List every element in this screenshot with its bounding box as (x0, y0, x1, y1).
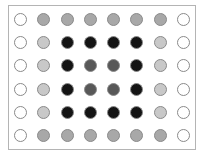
data-point-circle (14, 59, 27, 72)
grid-row (9, 124, 195, 147)
grid-cell (172, 36, 195, 49)
grid-cell (9, 83, 32, 96)
grid-cell (125, 106, 148, 119)
grid-cell (9, 13, 32, 26)
data-point-circle (37, 129, 50, 142)
data-point-circle (84, 83, 97, 96)
data-point-circle (130, 129, 143, 142)
grid-cell (32, 13, 55, 26)
data-point-circle (37, 59, 50, 72)
grid-cell (102, 129, 125, 142)
grid-cell (56, 13, 79, 26)
data-point-circle (61, 129, 74, 142)
grid-cell (32, 129, 55, 142)
data-point-circle (37, 36, 50, 49)
grid-cell (9, 59, 32, 72)
data-point-circle (84, 36, 97, 49)
data-point-circle (154, 129, 167, 142)
data-point-circle (37, 83, 50, 96)
data-point-circle (154, 59, 167, 72)
data-point-circle (177, 13, 190, 26)
grid-cell (102, 106, 125, 119)
caption-strip (8, 152, 196, 163)
grid-cell (32, 36, 55, 49)
data-point-circle (130, 83, 143, 96)
grid-cell (172, 13, 195, 26)
data-point-circle (84, 59, 97, 72)
grid-cell (125, 83, 148, 96)
data-point-circle (107, 36, 120, 49)
data-point-circle (61, 36, 74, 49)
data-point-circle (130, 13, 143, 26)
grid-cell (32, 106, 55, 119)
grid-cell (32, 59, 55, 72)
grid-cell (102, 36, 125, 49)
grid-cell (149, 106, 172, 119)
grid-cell (56, 83, 79, 96)
data-point-circle (14, 36, 27, 49)
grid-row (9, 54, 195, 77)
plot-frame (8, 5, 196, 150)
data-point-circle (177, 36, 190, 49)
grid-cell (56, 59, 79, 72)
grid-cell (56, 129, 79, 142)
data-point-circle (14, 83, 27, 96)
grid-cell (149, 129, 172, 142)
data-point-circle (154, 13, 167, 26)
data-point-circle (84, 129, 97, 142)
data-point-circle (107, 13, 120, 26)
data-point-circle (14, 129, 27, 142)
grid-cell (56, 106, 79, 119)
grid-cell (172, 106, 195, 119)
data-point-circle (130, 36, 143, 49)
data-point-circle (177, 129, 190, 142)
grid-cell (125, 13, 148, 26)
grid-cell (102, 59, 125, 72)
grid-cell (149, 36, 172, 49)
data-point-circle (130, 59, 143, 72)
data-point-circle (37, 106, 50, 119)
grid-cell (79, 59, 102, 72)
grid-cell (79, 106, 102, 119)
data-point-circle (61, 83, 74, 96)
grid-cell (9, 106, 32, 119)
grid-row (9, 78, 195, 101)
grid-cell (149, 83, 172, 96)
data-point-circle (84, 13, 97, 26)
grid-cell (149, 13, 172, 26)
data-point-circle (154, 106, 167, 119)
grid-row (9, 101, 195, 124)
data-point-circle (154, 36, 167, 49)
grid-cell (79, 129, 102, 142)
grid-cell (56, 36, 79, 49)
data-point-circle (14, 13, 27, 26)
data-point-circle (61, 13, 74, 26)
data-point-circle (107, 59, 120, 72)
grid-cell (79, 36, 102, 49)
figure-root (0, 0, 204, 163)
grid-cell (125, 59, 148, 72)
data-point-circle (107, 129, 120, 142)
grid-cell (79, 13, 102, 26)
data-point-circle (84, 106, 97, 119)
data-point-circle (37, 13, 50, 26)
grid-cell (32, 83, 55, 96)
grid-cell (9, 129, 32, 142)
data-point-circle (61, 59, 74, 72)
grid-cell (125, 129, 148, 142)
data-point-circle (130, 106, 143, 119)
grid-cell (79, 83, 102, 96)
grid-cell (9, 36, 32, 49)
grid-cell (149, 59, 172, 72)
grid-cell (172, 59, 195, 72)
data-point-circle (154, 83, 167, 96)
data-point-circle (177, 83, 190, 96)
dot-matrix-grid (9, 6, 195, 149)
data-point-circle (14, 106, 27, 119)
grid-cell (102, 13, 125, 26)
grid-cell (172, 83, 195, 96)
grid-cell (125, 36, 148, 49)
data-point-circle (107, 106, 120, 119)
grid-row (9, 8, 195, 31)
data-point-circle (177, 106, 190, 119)
